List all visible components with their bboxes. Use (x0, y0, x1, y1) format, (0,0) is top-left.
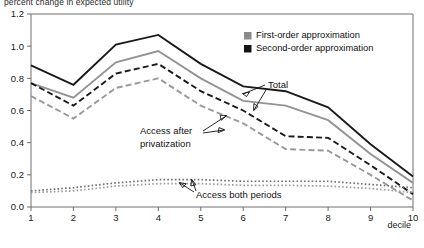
annotation-access-after-privatization: Access after privatization (140, 115, 227, 149)
y-tick-label-5: 1.0 (11, 41, 24, 52)
legend-swatch-0 (244, 32, 252, 40)
y-tick-label-3: 0.6 (11, 105, 24, 116)
y-tick-label-0: 0.0 (11, 201, 24, 212)
legend-swatch-1 (244, 45, 252, 53)
x-axis-ticks: 12345678910 (28, 207, 418, 223)
data-series-group (31, 35, 413, 201)
y-tick-label-1: 0.2 (11, 169, 24, 180)
x-tick-label-3: 4 (156, 212, 161, 223)
x-tick-label-0: 1 (28, 212, 33, 223)
x-tick-label-2: 3 (113, 212, 118, 223)
x-axis-label: decile (387, 220, 411, 230)
chart-legend: First-order approximationSecond-order ap… (244, 30, 373, 53)
chart-svg: 0.00.20.40.60.81.01.2 12345678910 First-… (0, 0, 424, 248)
annotation-access-after-label-line1: Access after (140, 125, 192, 136)
x-tick-label-1: 2 (71, 212, 76, 223)
annotation-access-after-label-line2: privatization (140, 138, 191, 149)
y-tick-label-4: 0.8 (11, 73, 24, 84)
y-tick-label-6: 1.2 (11, 8, 24, 19)
series-line-0 (31, 35, 413, 177)
annotation-access-both-periods: Access both periods (179, 179, 282, 200)
y-axis-ticks: 0.00.20.40.60.81.01.2 (11, 8, 31, 212)
x-tick-label-5: 6 (241, 212, 246, 223)
x-tick-label-7: 8 (325, 212, 330, 223)
annotation-total-arrowhead-1 (243, 92, 250, 96)
x-tick-label-8: 9 (368, 212, 373, 223)
x-tick-label-6: 7 (283, 212, 288, 223)
legend-label-0: First-order approximation (256, 30, 360, 40)
chart-container: percent change in expected utility 0.00.… (0, 0, 424, 248)
annotation-total-label: Total (268, 79, 288, 90)
x-tick-label-4: 5 (198, 212, 203, 223)
y-tick-label-2: 0.4 (11, 137, 24, 148)
annotation-total-leader-2 (254, 90, 266, 110)
series-line-3 (31, 78, 413, 200)
legend-label-1: Second-order approximation (256, 43, 373, 53)
annotation-access-both-label: Access both periods (196, 189, 282, 200)
